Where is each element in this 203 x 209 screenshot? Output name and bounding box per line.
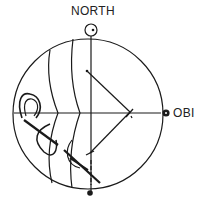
north-marker-icon (85, 24, 97, 36)
arc-outer (49, 50, 58, 183)
stereonet-diagram (0, 0, 203, 209)
construction-line-1 (87, 71, 130, 112)
construction-line-2 (90, 112, 130, 153)
south-marker-icon (87, 190, 93, 196)
slanted-line-1 (24, 120, 58, 145)
